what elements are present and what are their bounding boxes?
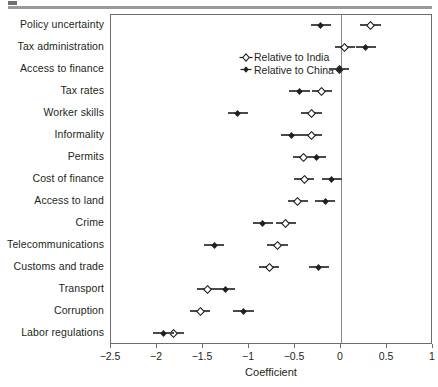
filled-diamond-marker: [238, 307, 249, 316]
filled-diamond-marker: [294, 87, 305, 96]
data-row: [111, 194, 431, 208]
open-diamond-marker: [280, 219, 291, 228]
open-diamond-marker: [272, 241, 283, 250]
y-axis-category-labels: Policy uncertaintyTax administrationAcce…: [0, 14, 104, 344]
y-axis-label: Permits: [0, 151, 104, 162]
filled-diamond-marker: [158, 329, 169, 338]
data-row: [111, 128, 431, 142]
x-axis-tick: [156, 344, 157, 348]
x-axis-tick-label: 0: [337, 350, 343, 362]
open-diamond-marker: [292, 197, 303, 206]
filled-diamond-marker: [257, 219, 268, 228]
x-axis-tick: [432, 344, 433, 348]
data-row: [111, 18, 431, 32]
data-row: [111, 326, 431, 340]
y-axis-label: Transport: [0, 283, 104, 294]
y-axis-label: Labor regulations: [0, 327, 104, 338]
filled-diamond-marker: [360, 43, 371, 52]
x-axis-tick: [294, 344, 295, 348]
filled-diamond-marker: [286, 131, 297, 140]
data-row: [111, 172, 431, 186]
filled-diamond-marker: [313, 263, 324, 272]
filled-diamond-marker: [232, 109, 243, 118]
y-axis-label: Access to finance: [0, 63, 104, 74]
data-row: [111, 62, 431, 76]
data-row: [111, 260, 431, 274]
plot-area: Relative to India Relative to China: [110, 14, 432, 344]
figure-container: Policy uncertaintyTax administrationAcce…: [0, 0, 438, 387]
y-axis-label: Cost of finance: [0, 173, 104, 184]
x-axis-tick-label: −0.5: [284, 350, 305, 362]
filled-diamond-marker: [334, 65, 345, 74]
data-row: [111, 282, 431, 296]
y-axis-label: Telecommunications: [0, 239, 104, 250]
x-axis-tick: [340, 344, 341, 348]
x-axis-tick: [110, 344, 111, 348]
data-row: [111, 304, 431, 318]
y-axis-label: Customs and trade: [0, 261, 104, 272]
filled-diamond-marker: [320, 197, 331, 206]
x-axis: −2.5−2−1.5−1−0.500.51 Coefficient: [110, 344, 432, 384]
open-diamond-marker: [299, 175, 310, 184]
open-diamond-marker: [202, 285, 213, 294]
open-diamond-marker: [264, 263, 275, 272]
data-row: [111, 84, 431, 98]
filled-diamond-marker: [326, 175, 337, 184]
filled-diamond-marker: [220, 285, 231, 294]
filled-diamond-marker: [315, 21, 326, 30]
y-axis-label: Tax rates: [0, 85, 104, 96]
data-row: [111, 216, 431, 230]
data-row: [111, 40, 431, 54]
y-axis-label: Tax administration: [0, 41, 104, 52]
x-axis-title: Coefficient: [110, 366, 432, 378]
x-axis-tick-label: −1.5: [192, 350, 213, 362]
filled-diamond-marker: [209, 241, 220, 250]
x-axis-tick-label: −1: [242, 350, 254, 362]
open-diamond-marker: [306, 131, 317, 140]
y-axis-label: Access to land: [0, 195, 104, 206]
y-axis-label: Worker skills: [0, 107, 104, 118]
x-axis-tick: [202, 344, 203, 348]
x-axis-tick-label: 0.5: [379, 350, 394, 362]
data-row: [111, 150, 431, 164]
figure-header-rule: [8, 6, 432, 9]
x-axis-tick: [386, 344, 387, 348]
y-axis-label: Policy uncertainty: [0, 19, 104, 30]
open-diamond-marker: [306, 109, 317, 118]
data-row: [111, 238, 431, 252]
open-diamond-marker: [365, 21, 376, 30]
open-diamond-marker: [339, 43, 350, 52]
y-axis-label: Informality: [0, 129, 104, 140]
x-axis-tick-label: 1: [429, 350, 435, 362]
open-diamond-marker: [316, 87, 327, 96]
data-row: [111, 106, 431, 120]
x-axis-tick: [248, 344, 249, 348]
y-axis-label: Corruption: [0, 305, 104, 316]
x-axis-tick-label: −2: [150, 350, 162, 362]
filled-diamond-marker: [311, 153, 322, 162]
y-axis-label: Crime: [0, 217, 104, 228]
x-axis-tick-label: −2.5: [100, 350, 121, 362]
open-diamond-marker: [195, 307, 206, 316]
